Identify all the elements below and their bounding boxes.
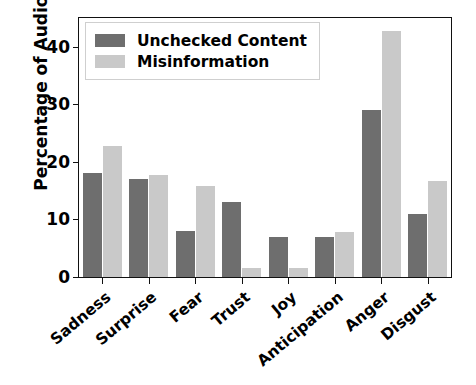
- bar-joy-unchecked-content: [269, 237, 288, 277]
- bar-trust-unchecked-content: [222, 202, 241, 277]
- x-axis-tick-mark: [102, 277, 103, 284]
- y-axis-tick-mark: [73, 162, 79, 163]
- legend-entry: Misinformation: [95, 51, 307, 72]
- x-axis-tick-mark: [335, 277, 336, 284]
- x-axis-tick-mark: [428, 277, 429, 284]
- bar-joy-misinformation: [289, 268, 308, 277]
- bar-sadness-misinformation: [103, 146, 122, 277]
- bar-anger-unchecked-content: [362, 110, 381, 277]
- x-axis-tick-mark: [195, 277, 196, 284]
- legend-swatch-unchecked-content: [95, 34, 125, 47]
- legend-label-unchecked-content: Unchecked Content: [137, 32, 307, 50]
- x-axis-tick-label-joy: Joy: [268, 288, 300, 319]
- legend-entry: Unchecked Content: [95, 30, 307, 51]
- x-axis-tick-mark: [149, 277, 150, 284]
- y-axis-tick-label: 30: [46, 94, 70, 114]
- bar-group: [315, 18, 354, 277]
- bar-anger-misinformation: [382, 31, 401, 277]
- bar-chart-figure: Percentage of Audios 010203040SadnessSur…: [0, 0, 476, 385]
- legend-swatch-misinformation: [95, 55, 125, 68]
- bar-group: [362, 18, 401, 277]
- bar-disgust-misinformation: [428, 181, 447, 277]
- x-axis-tick-mark: [288, 277, 289, 284]
- bar-group: [408, 18, 447, 277]
- y-axis-tick-mark: [73, 277, 79, 278]
- bar-surprise-misinformation: [149, 175, 168, 277]
- bar-fear-unchecked-content: [176, 231, 195, 277]
- bar-trust-misinformation: [242, 268, 261, 277]
- y-axis-tick-label: 10: [46, 209, 70, 229]
- chart-legend: Unchecked Content Misinformation: [85, 22, 320, 80]
- bar-surprise-unchecked-content: [129, 179, 148, 277]
- plot-area: 010203040SadnessSurpriseFearTrustJoyAnti…: [78, 17, 452, 278]
- y-axis-tick-label: 40: [46, 37, 70, 57]
- y-axis-tick-label: 0: [58, 267, 70, 287]
- x-axis-tick-label-fear: Fear: [166, 288, 207, 327]
- legend-label-misinformation: Misinformation: [137, 53, 269, 71]
- y-axis-tick-mark: [73, 104, 79, 105]
- bar-anticipation-unchecked-content: [315, 237, 334, 277]
- bar-fear-misinformation: [196, 186, 215, 277]
- x-axis-tick-mark: [381, 277, 382, 284]
- bar-sadness-unchecked-content: [83, 173, 102, 277]
- y-axis-tick-mark: [73, 47, 79, 48]
- bar-disgust-unchecked-content: [408, 214, 427, 277]
- y-axis-tick-mark: [73, 219, 79, 220]
- y-axis-tick-label: 20: [46, 152, 70, 172]
- x-axis-tick-label-trust: Trust: [208, 288, 253, 330]
- x-axis-tick-mark: [242, 277, 243, 284]
- bar-anticipation-misinformation: [335, 232, 354, 277]
